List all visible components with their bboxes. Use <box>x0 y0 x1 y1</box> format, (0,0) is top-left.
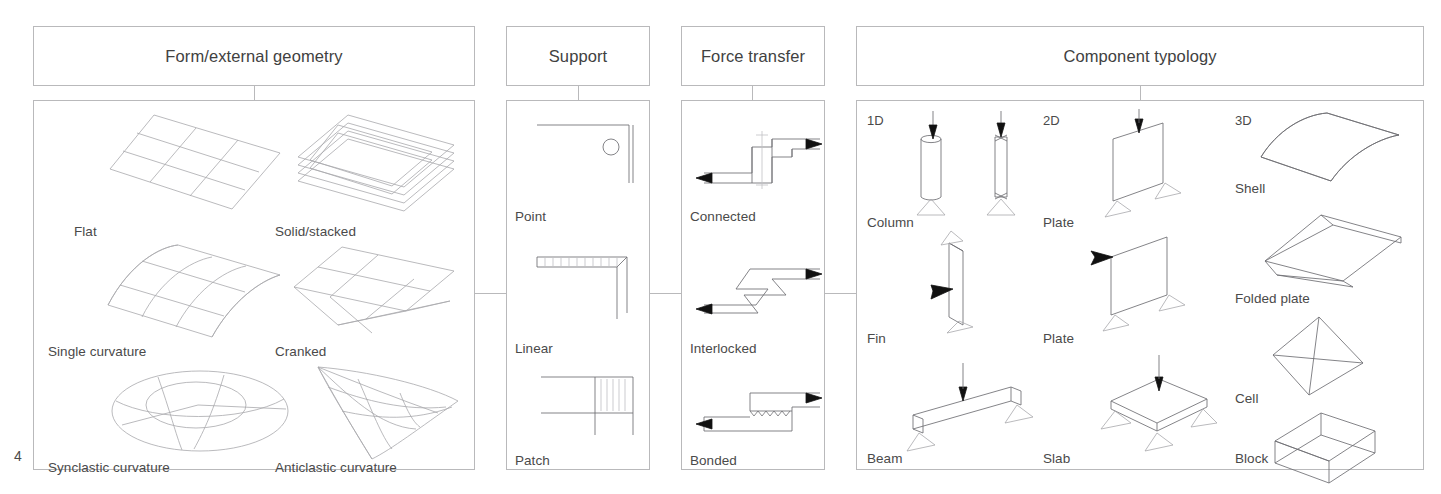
plate-vertical-2-icon <box>1067 229 1207 334</box>
anticlastic-saddle-icon <box>288 357 468 462</box>
flat-grid-plane-icon <box>106 111 296 216</box>
header-support[interactable]: Support <box>506 26 650 86</box>
connector-component <box>1140 86 1141 100</box>
interlocked-joint-icon <box>688 261 824 323</box>
body-component-typology: 1D 2D 3D <box>856 100 1424 470</box>
item-label-connected: Connected <box>690 209 756 224</box>
item-label-fin: Fin <box>867 331 886 346</box>
diagram-canvas: 4 Form/external geometry Support Force t… <box>0 0 1441 494</box>
header-force-transfer[interactable]: Force transfer <box>681 26 825 86</box>
patch-support-icon <box>533 373 643 443</box>
item-label-interlocked: Interlocked <box>690 341 757 356</box>
item-label-folded-plate: Folded plate <box>1235 291 1310 306</box>
bonded-joint-icon <box>688 383 824 445</box>
connector-force <box>752 86 753 100</box>
item-label-bonded: Bonded <box>690 453 737 468</box>
item-label-patch: Patch <box>515 453 550 468</box>
body-form-external-geometry: Flat Solid/stacked <box>33 100 475 470</box>
header-form-external-geometry[interactable]: Form/external geometry <box>33 26 475 86</box>
page-number: 4 <box>14 448 22 464</box>
folded-plate-icon <box>1257 211 1407 289</box>
block-box-icon <box>1265 407 1395 487</box>
cranked-plane-icon <box>286 239 466 339</box>
connector-form <box>254 86 255 100</box>
connector-support <box>578 86 579 100</box>
item-label-block: Block <box>1235 451 1268 466</box>
item-label-solid-stacked: Solid/stacked <box>275 224 356 239</box>
connector-form-support <box>474 293 506 294</box>
item-label-column: Column <box>867 215 914 230</box>
item-label-single-curvature: Single curvature <box>48 344 146 359</box>
point-support-icon <box>533 119 643 189</box>
item-label-flat: Flat <box>74 224 97 239</box>
item-label-linear: Linear <box>515 341 553 356</box>
column-icon <box>897 109 1027 221</box>
fin-icon <box>907 229 1027 334</box>
item-label-beam: Beam <box>867 451 902 466</box>
connector-support-force <box>650 293 682 294</box>
header-label: Component typology <box>1063 47 1216 66</box>
body-support: Point Linear <box>506 100 650 470</box>
slab-icon <box>1057 353 1217 458</box>
linear-support-icon <box>533 253 643 323</box>
item-label-slab: Slab <box>1043 451 1070 466</box>
single-curvature-surface-icon <box>102 239 292 344</box>
item-label-anticlastic-curvature: Anticlastic curvature <box>275 460 397 475</box>
cell-tetra-icon <box>1265 313 1395 399</box>
item-label-plate-1: Plate <box>1043 215 1074 230</box>
item-label-point: Point <box>515 209 546 224</box>
synclastic-dome-icon <box>104 359 294 459</box>
item-label-plate-2: Plate <box>1043 331 1074 346</box>
connected-joint-icon <box>688 129 824 191</box>
header-label: Support <box>549 47 608 66</box>
group-label-2d: 2D <box>1043 113 1060 128</box>
group-label-3d: 3D <box>1235 113 1252 128</box>
header-component-typology[interactable]: Component typology <box>856 26 1424 86</box>
body-force-transfer: Connected Interlocked <box>681 100 825 470</box>
group-label-1d: 1D <box>867 113 884 128</box>
stacked-layers-icon <box>292 113 462 213</box>
connector-force-component <box>824 293 856 294</box>
item-label-cell: Cell <box>1235 391 1258 406</box>
item-label-synclastic-curvature: Synclastic curvature <box>48 460 170 475</box>
shell-icon <box>1257 109 1407 185</box>
header-label: Force transfer <box>701 47 805 66</box>
beam-icon <box>893 353 1043 458</box>
plate-vertical-icon <box>1067 109 1207 221</box>
header-label: Form/external geometry <box>165 47 342 66</box>
item-label-shell: Shell <box>1235 181 1265 196</box>
